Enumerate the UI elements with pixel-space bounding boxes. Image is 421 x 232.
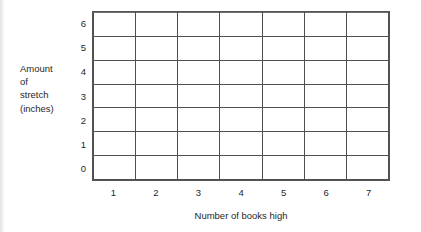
x-tick-label-7: 7 [347, 186, 390, 200]
grid-cell[interactable] [178, 156, 220, 180]
grid-cell[interactable] [136, 13, 178, 37]
grid-cell[interactable] [262, 84, 304, 108]
grid-row [94, 156, 389, 180]
y-tick-label-3: 3 [68, 90, 86, 103]
grid-cell[interactable] [136, 60, 178, 84]
grid-cell[interactable] [304, 84, 346, 108]
x-tick-label-1: 1 [92, 186, 135, 200]
y-tick-label-1: 1 [68, 138, 86, 151]
grid-cell[interactable] [346, 36, 388, 60]
y-tick-label-2: 2 [68, 114, 86, 127]
grid-cell[interactable] [220, 132, 262, 156]
grid-cell[interactable] [178, 108, 220, 132]
grid-cell[interactable] [94, 156, 136, 180]
grid-cell[interactable] [262, 13, 304, 37]
grid-cell[interactable] [94, 13, 136, 37]
grid-cell[interactable] [136, 36, 178, 60]
grid-cell[interactable] [220, 108, 262, 132]
grid-cell[interactable] [346, 156, 388, 180]
y-tick-label-0: 0 [68, 162, 86, 175]
grid-cell[interactable] [136, 84, 178, 108]
grid-row [94, 132, 389, 156]
grid-cell[interactable] [346, 84, 388, 108]
grid-cell[interactable] [304, 132, 346, 156]
grid-cell[interactable] [346, 132, 388, 156]
x-tick-label-4: 4 [220, 186, 263, 200]
grid-cell[interactable] [304, 60, 346, 84]
plot-grid-area[interactable] [92, 11, 390, 181]
grid-cell[interactable] [304, 108, 346, 132]
grid-cell[interactable] [178, 132, 220, 156]
grid-cell[interactable] [220, 13, 262, 37]
y-tick-label-6: 6 [68, 17, 86, 30]
grid-cell[interactable] [94, 132, 136, 156]
grid-cell[interactable] [346, 13, 388, 37]
grid-cell[interactable] [220, 36, 262, 60]
grid-cell[interactable] [346, 60, 388, 84]
grid-cell[interactable] [220, 60, 262, 84]
y-tick-label-4: 4 [68, 65, 86, 78]
grid-cell[interactable] [262, 156, 304, 180]
grid-cell[interactable] [346, 108, 388, 132]
x-tick-label-6: 6 [305, 186, 348, 200]
x-tick-label-3: 3 [177, 186, 220, 200]
grid-cell[interactable] [136, 132, 178, 156]
grid-row [94, 84, 389, 108]
x-tick-label-5: 5 [262, 186, 305, 200]
grid-table [93, 12, 389, 180]
grid-cell[interactable] [94, 60, 136, 84]
grid-cell[interactable] [262, 108, 304, 132]
x-axis-tick-labels: 1 2 3 4 5 6 7 [92, 186, 390, 200]
grid-cell[interactable] [178, 36, 220, 60]
grid-cell[interactable] [262, 132, 304, 156]
grid-worksheet-chart: Amount of stretch (inches) 6 5 4 3 2 1 0 [0, 0, 421, 232]
y-axis-tick-labels: 6 5 4 3 2 1 0 [68, 11, 86, 181]
grid-cell[interactable] [220, 156, 262, 180]
grid-cell[interactable] [304, 156, 346, 180]
grid-cell[interactable] [94, 108, 136, 132]
x-tick-label-2: 2 [135, 186, 178, 200]
grid-cell[interactable] [262, 60, 304, 84]
grid-row [94, 36, 389, 60]
grid-cell[interactable] [136, 108, 178, 132]
x-axis-title: Number of books high [92, 209, 390, 222]
grid-cell[interactable] [304, 36, 346, 60]
grid-row [94, 13, 389, 37]
grid-row [94, 108, 389, 132]
grid-cell[interactable] [136, 156, 178, 180]
grid-cell[interactable] [94, 36, 136, 60]
grid-cell[interactable] [178, 13, 220, 37]
grid-cell[interactable] [304, 13, 346, 37]
grid-cell[interactable] [178, 84, 220, 108]
grid-row [94, 60, 389, 84]
y-tick-label-5: 5 [68, 41, 86, 54]
grid-cell[interactable] [178, 60, 220, 84]
grid-cell[interactable] [220, 84, 262, 108]
grid-cell[interactable] [262, 36, 304, 60]
grid-cell[interactable] [94, 84, 136, 108]
